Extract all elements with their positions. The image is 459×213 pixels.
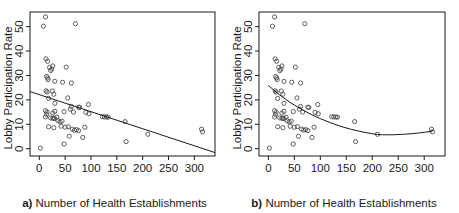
panel-a-data-point — [201, 130, 205, 134]
panel-a-data-point — [62, 109, 66, 113]
panel-b-data-point — [276, 125, 280, 129]
panel-b-caption: b) Number of Health Establishments — [229, 197, 459, 209]
panel-a-x-tick-label: 100 — [81, 162, 100, 174]
panel-b-data-point — [316, 102, 320, 106]
panel-b-y-axis-title-text: Lobby Participation Rate — [231, 26, 243, 149]
panel-a-data-point — [38, 146, 42, 150]
panel-a-data-point — [73, 22, 77, 26]
panel-a-data-point — [64, 65, 68, 69]
panel-b-plot-frame — [259, 12, 445, 156]
panel-b-data-point — [288, 124, 292, 128]
panel-a-data-point — [66, 96, 70, 100]
panel-a-data-point — [62, 142, 66, 146]
panel-b-x-tick-label: 0 — [265, 162, 271, 174]
panel-b-x-tick-label: 250 — [389, 162, 408, 174]
panel-b-data-point — [272, 15, 276, 19]
panel-a-caption-prefix: a) — [22, 197, 32, 209]
panel-a-data-point — [53, 101, 57, 105]
panel-b-caption-prefix: b) — [251, 197, 262, 209]
panel-a-data-point — [43, 15, 47, 19]
panel-b-caption-text: Number of Health Establishments — [265, 197, 436, 209]
panel-b-data-point — [281, 126, 285, 130]
panel-b-data-point — [282, 101, 286, 105]
panel-a-data-point — [67, 134, 71, 138]
panel-b-data-point — [429, 127, 433, 131]
panel-b-data-point — [354, 140, 358, 144]
panel-a-data-point — [47, 125, 51, 129]
panel-b-data-point — [295, 96, 299, 100]
panel-b-data-point — [282, 79, 286, 83]
panel-a-data-point — [124, 140, 128, 144]
panel-b-fitted-curve — [268, 85, 432, 134]
panel-b-x-tick-label: 200 — [363, 162, 382, 174]
panel-a-plot: 05010015020025030001020304050 — [0, 0, 229, 180]
panel-a-x-tick-label: 150 — [107, 162, 126, 174]
panel-b-data-point — [293, 65, 297, 69]
panel-a-data-point — [69, 81, 73, 85]
panel-b-data-point — [310, 135, 314, 139]
panel-b-data-point — [270, 24, 274, 28]
panel-a-data-point — [81, 135, 85, 139]
panel-a-data-point — [41, 24, 45, 28]
panel-b-x-tick-label: 300 — [415, 162, 434, 174]
panel-a-x-tick-label: 300 — [185, 162, 204, 174]
panel-a-data-point — [59, 124, 63, 128]
panel-b-data-point — [430, 130, 434, 134]
panel-a-data-point — [86, 102, 90, 106]
panel-b-data-point — [303, 22, 307, 26]
panel-a-data-point — [45, 90, 49, 94]
panel-a-x-tick-label: 50 — [59, 162, 72, 174]
panel-a-x-tick-label: 0 — [36, 162, 42, 174]
panel-a-data-point — [52, 126, 56, 130]
panel-a-x-tick-label: 200 — [133, 162, 152, 174]
panel-b-data-points — [267, 15, 434, 151]
panel-b-data-point — [291, 142, 295, 146]
panel-b-data-point — [353, 119, 357, 123]
panel-a-data-point — [83, 125, 87, 129]
panel-b-data-point — [290, 80, 294, 84]
panel-b-data-point — [267, 146, 271, 150]
panel-b-data-point — [298, 81, 302, 85]
panel-a: Lobby Participation Rate 050100150200250… — [0, 0, 229, 213]
panel-b-plot: 05010015020025030001020304050 — [229, 0, 459, 180]
panel-b-data-point — [312, 125, 316, 129]
panel-b-data-point — [276, 96, 280, 100]
panel-a-data-point — [199, 127, 203, 131]
panel-a-data-point — [53, 79, 57, 83]
panel-a-y-axis-title-text: Lobby Participation Rate — [2, 26, 14, 149]
panel-a-data-point — [146, 132, 150, 136]
panel-a-data-points — [38, 15, 204, 151]
panel-b-x-tick-label: 150 — [337, 162, 356, 174]
panel-b-data-point — [296, 134, 300, 138]
panel-b-x-tick-label: 50 — [288, 162, 301, 174]
figure-container: Lobby Participation Rate 050100150200250… — [0, 0, 459, 213]
panel-b: Lobby Participation Rate 050100150200250… — [229, 0, 459, 213]
panel-b-y-axis-title: Lobby Participation Rate — [229, 0, 245, 175]
panel-b-data-point — [291, 109, 295, 113]
panel-a-data-point — [71, 110, 75, 114]
panel-a-caption-text: Number of Health Establishments — [36, 197, 207, 209]
panel-a-caption: a) Number of Health Establishments — [0, 197, 229, 209]
panel-a-x-tick-label: 250 — [159, 162, 178, 174]
panel-b-x-tick-label: 100 — [311, 162, 330, 174]
panel-a-y-axis-title: Lobby Participation Rate — [0, 0, 16, 175]
panel-a-data-point — [60, 80, 64, 84]
panel-a-plot-frame — [30, 12, 215, 156]
